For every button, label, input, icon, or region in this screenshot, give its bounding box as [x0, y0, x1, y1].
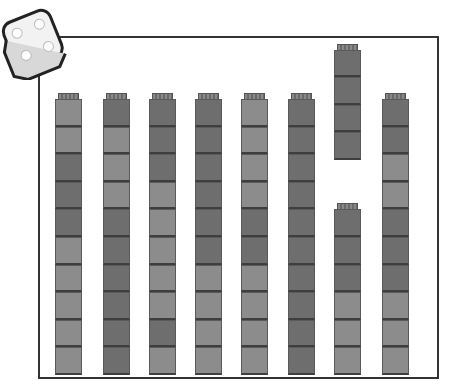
cube: [103, 182, 130, 210]
cube: [288, 320, 315, 348]
cube: [382, 347, 409, 375]
cube: [288, 127, 315, 155]
cube: [55, 347, 82, 375]
cube: [195, 320, 222, 348]
cube: [241, 127, 268, 155]
cube: [288, 154, 315, 182]
cube: [241, 99, 268, 127]
stack-3: [149, 93, 176, 375]
cube: [103, 154, 130, 182]
cube: [382, 99, 409, 127]
cube: [241, 347, 268, 375]
cube: [149, 209, 176, 237]
cube: [241, 237, 268, 265]
cube: [334, 77, 361, 105]
cube: [241, 265, 268, 293]
cube: [103, 99, 130, 127]
cube: [55, 127, 82, 155]
cube: [195, 237, 222, 265]
cube: [241, 320, 268, 348]
cube: [334, 50, 361, 78]
cube: [103, 237, 130, 265]
cube: [334, 292, 361, 320]
cube: [241, 182, 268, 210]
cube: [149, 265, 176, 293]
cube: [195, 99, 222, 127]
stack-5: [241, 93, 268, 375]
cube: [55, 292, 82, 320]
cube: [55, 182, 82, 210]
cube: [288, 292, 315, 320]
cube: [149, 237, 176, 265]
cube: [382, 127, 409, 155]
cube: [288, 209, 315, 237]
cube: [195, 127, 222, 155]
cube: [55, 209, 82, 237]
cube: [382, 292, 409, 320]
stack-6: [288, 93, 315, 375]
cube: [195, 182, 222, 210]
cube: [55, 154, 82, 182]
cube: [334, 347, 361, 375]
cube: [241, 209, 268, 237]
cube: [149, 127, 176, 155]
cube: [195, 347, 222, 375]
cube: [241, 154, 268, 182]
cube: [288, 99, 315, 127]
cube: [103, 209, 130, 237]
cube: [55, 237, 82, 265]
figure-frame: [38, 36, 439, 379]
cube: [382, 154, 409, 182]
cube: [334, 105, 361, 133]
cube: [55, 99, 82, 127]
cube: [288, 182, 315, 210]
cube: [334, 209, 361, 237]
cube: [149, 182, 176, 210]
cube: [55, 320, 82, 348]
stack-2: [103, 93, 130, 375]
stack-8: [382, 93, 409, 375]
cube: [149, 347, 176, 375]
cube: [288, 347, 315, 375]
cube: [149, 154, 176, 182]
cube: [195, 265, 222, 293]
cube: [382, 209, 409, 237]
cube: [288, 237, 315, 265]
cube: [103, 347, 130, 375]
cube: [103, 320, 130, 348]
cube: [195, 292, 222, 320]
stack-7-bottom: [334, 203, 361, 375]
cube: [103, 265, 130, 293]
cube: [334, 132, 361, 160]
cube: [149, 99, 176, 127]
cube: [382, 182, 409, 210]
cube: [382, 265, 409, 293]
cube: [334, 237, 361, 265]
cube: [149, 292, 176, 320]
cube: [149, 320, 176, 348]
cube: [288, 265, 315, 293]
cube: [103, 292, 130, 320]
cube: [382, 320, 409, 348]
stack-7-top: [334, 44, 361, 160]
cube: [382, 237, 409, 265]
cube: [195, 154, 222, 182]
cube: [241, 292, 268, 320]
cube: [334, 320, 361, 348]
cube: [334, 265, 361, 293]
stack-1: [55, 93, 82, 375]
stack-4: [195, 93, 222, 375]
die-icon: [0, 0, 70, 80]
cube: [55, 265, 82, 293]
cube: [195, 209, 222, 237]
cube: [103, 127, 130, 155]
